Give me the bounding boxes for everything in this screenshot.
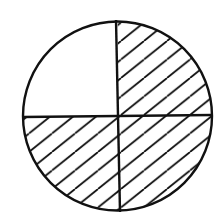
fraction-circle-diagram xyxy=(0,0,221,222)
quadrant-bottom-right-shaded xyxy=(118,116,222,222)
quadrant-bottom-left-shaded xyxy=(0,116,118,222)
quadrant-top-right-shaded xyxy=(118,0,222,116)
quadrant-top-left-unshaded xyxy=(0,0,118,116)
